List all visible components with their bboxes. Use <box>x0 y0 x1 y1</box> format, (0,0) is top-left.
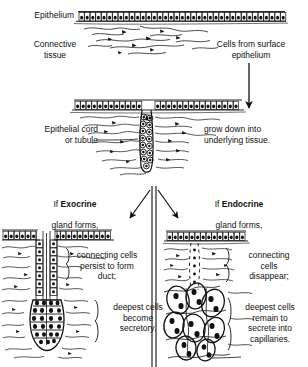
note-endocrine-connecting-cells: connecting cells disappear; <box>232 250 306 282</box>
heading-endocrine-bold: Endocrine <box>222 199 264 209</box>
endocrine-disappearing-cord <box>190 243 200 290</box>
label-connective-tissue: Connective tissue <box>14 39 96 60</box>
heading-endocrine-suffix: gland forms, <box>216 220 263 230</box>
endocrine-brace-deepest <box>228 298 231 350</box>
exocrine-brace-deepest <box>95 300 98 342</box>
stage2-connective-tissue <box>80 116 220 175</box>
capillaries-label-leader <box>212 357 241 358</box>
stage2-epithelial-cord <box>140 110 153 172</box>
note-endocrine-deepest-cells: deepest cells remain to secrete into cap… <box>234 302 306 344</box>
stage1-fibroblast-nuclei <box>108 30 181 55</box>
label-epithelium: Epithelium <box>2 10 74 21</box>
stage2-epithelium-sheet <box>70 100 246 113</box>
branch-arrow-left <box>130 190 150 218</box>
label-epithelial-cord: Epithelial cord or tubule <box>24 124 98 145</box>
heading-exocrine-suffix: gland forms, <box>52 220 99 230</box>
endocrine-brace-connecting <box>226 248 229 282</box>
heading-exocrine: If Exocrine gland forms, <box>22 188 128 230</box>
label-cells-from-surface-epithelium: Cells from surface epithelium <box>196 39 306 60</box>
branch-arrow-right <box>158 190 178 218</box>
heading-exocrine-bold: Exocrine <box>61 199 97 209</box>
endocrine-cord-remnant-nuclei <box>193 249 196 284</box>
exocrine-secretory-acinus <box>30 300 64 351</box>
stage2-fibroblast-nuclei <box>104 121 186 163</box>
stage1-epithelium-sheet <box>74 12 288 25</box>
note-exocrine-deepest-cells: deepest cells become secretory. <box>100 302 176 334</box>
endocrine-cluster-nuclei <box>170 289 220 358</box>
label-grow-down-into: grow down into underlying tissue. <box>204 124 308 145</box>
duct-lining-cells <box>36 240 57 296</box>
cord-label-leader <box>96 139 138 140</box>
heading-endocrine-prefix: If <box>215 199 222 209</box>
heading-exocrine-prefix: If <box>54 199 61 209</box>
note-exocrine-connecting-cells: connecting cells persist to form duct; <box>68 250 146 282</box>
heading-endocrine: If Endocrine gland forms, <box>184 188 294 230</box>
